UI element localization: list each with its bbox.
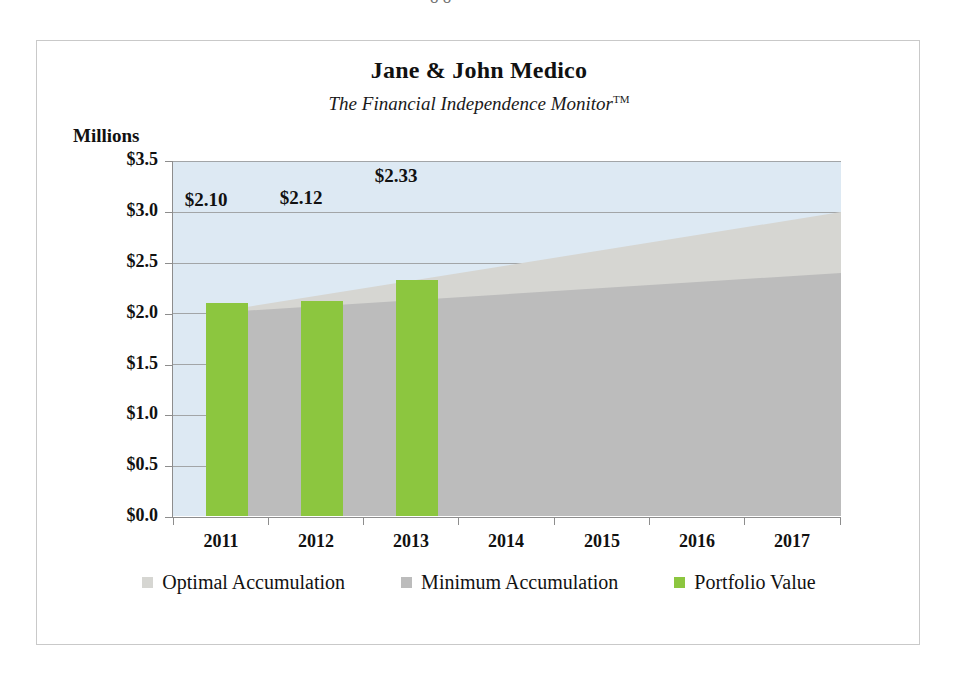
legend-label-minimum: Minimum Accumulation (421, 571, 618, 594)
y-axis-unit-label: Millions (73, 125, 140, 147)
y-tick-label-3-5: $3.5 (127, 149, 159, 170)
bar-label-2011: $2.10 (161, 189, 251, 211)
legend-item-optimal-accumulation[interactable]: Optimal Accumulation (142, 571, 345, 594)
x-tick-mark-4 (554, 517, 555, 525)
y-tick-mark-1-5 (165, 365, 173, 366)
legend-swatch-icon-optimal (142, 577, 153, 588)
bar-portfolio-2012[interactable] (301, 301, 343, 516)
x-tick-label-2015: 2015 (554, 531, 650, 552)
y-tick-label-0-5: $0.5 (127, 454, 159, 475)
chart-title: Jane & John Medico (37, 57, 921, 84)
y-tick-mark-2-5 (165, 263, 173, 264)
x-axis-line (173, 517, 841, 518)
y-tick-label-1-0: $1.0 (127, 403, 159, 424)
y-tick-mark-0-5 (165, 466, 173, 467)
trademark-symbol: TM (613, 93, 630, 105)
chart-frame: Jane & John Medico The Financial Indepen… (36, 40, 920, 645)
x-tick-label-2014: 2014 (458, 531, 554, 552)
y-tick-mark-3-5 (165, 161, 173, 162)
x-tick-mark-1 (268, 517, 269, 525)
chart-subtitle-text: The Financial Independence Monitor (329, 93, 613, 114)
legend-swatch-icon-minimum (401, 577, 412, 588)
x-tick-mark-3 (458, 517, 459, 525)
x-tick-mark-2 (363, 517, 364, 525)
bar-label-2013: $2.33 (351, 165, 441, 187)
x-tick-label-2013: 2013 (363, 531, 459, 552)
y-tick-label-2-0: $2.0 (127, 302, 159, 323)
legend-swatch-icon-portfolio (674, 577, 685, 588)
bar-label-2012: $2.12 (256, 187, 346, 209)
area-series-svg (173, 161, 841, 516)
legend-label-optimal: Optimal Accumulation (162, 571, 345, 594)
scan-artifact-text: o o (430, 0, 451, 8)
chart-legend: Optimal Accumulation Minimum Accumulatio… (37, 571, 921, 594)
legend-item-minimum-accumulation[interactable]: Minimum Accumulation (401, 571, 618, 594)
x-tick-label-2017: 2017 (744, 531, 840, 552)
bar-portfolio-2011[interactable] (206, 303, 248, 516)
y-tick-label-2-5: $2.5 (127, 251, 159, 272)
plot-area (173, 161, 841, 516)
y-tick-mark-2-0 (165, 314, 173, 315)
y-tick-mark-1-0 (165, 415, 173, 416)
y-tick-label-1-5: $1.5 (127, 353, 159, 374)
y-tick-mark-3-0 (165, 212, 173, 213)
bar-portfolio-2013[interactable] (396, 280, 438, 516)
x-tick-mark-0 (173, 517, 174, 525)
legend-item-portfolio-value[interactable]: Portfolio Value (674, 571, 815, 594)
y-tick-mark-0-0 (165, 517, 173, 518)
chart-subtitle: The Financial Independence MonitorTM (37, 93, 921, 115)
x-tick-label-2016: 2016 (649, 531, 745, 552)
x-tick-mark-7 (840, 517, 841, 525)
x-tick-label-2012: 2012 (268, 531, 364, 552)
x-tick-mark-6 (744, 517, 745, 525)
x-tick-label-2011: 2011 (173, 531, 269, 552)
y-tick-label-3-0: $3.0 (127, 200, 159, 221)
legend-label-portfolio: Portfolio Value (694, 571, 815, 594)
y-tick-label-0-0: $0.0 (127, 505, 159, 526)
x-tick-mark-5 (649, 517, 650, 525)
